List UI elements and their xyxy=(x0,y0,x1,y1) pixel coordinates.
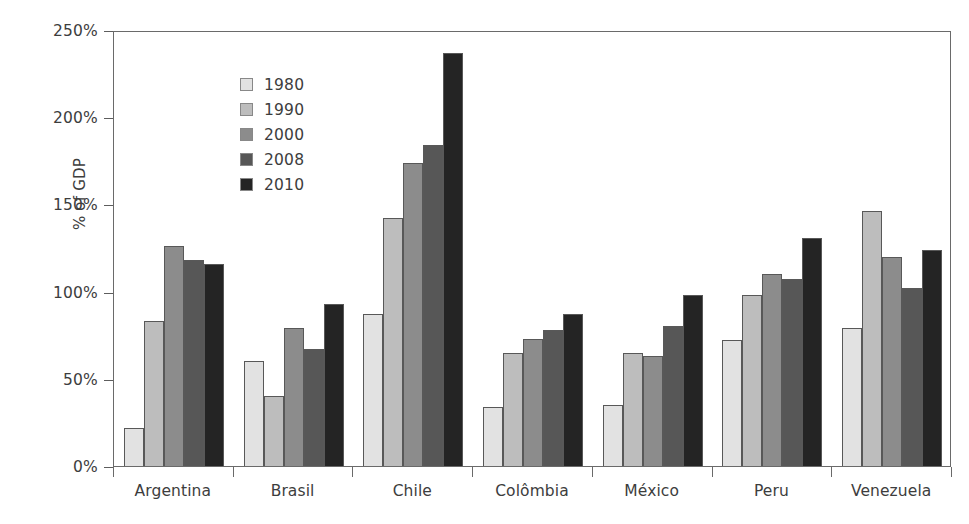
bar xyxy=(164,246,184,466)
bar xyxy=(244,361,264,466)
y-tick-label: 200% xyxy=(36,109,98,127)
bar xyxy=(144,321,164,466)
bar xyxy=(304,349,324,466)
y-tick-label: 100% xyxy=(36,284,98,302)
legend-swatch-icon xyxy=(240,153,253,166)
y-tick-mark xyxy=(104,31,113,32)
x-axis-separator xyxy=(472,467,473,477)
legend-swatch-icon xyxy=(240,103,253,116)
bar xyxy=(762,274,782,466)
bar xyxy=(124,428,144,466)
bar xyxy=(882,257,902,466)
bar xyxy=(663,326,683,466)
y-tick-mark xyxy=(104,205,113,206)
bar-group xyxy=(713,32,833,466)
y-tick-mark xyxy=(104,118,113,119)
x-axis-separator xyxy=(113,467,114,477)
x-axis-category-label: Brasil xyxy=(271,482,315,500)
bar xyxy=(623,353,643,466)
y-tick-mark xyxy=(104,380,113,381)
bar-group xyxy=(114,32,234,466)
x-axis-separator xyxy=(352,467,353,477)
plot-frame: 19801990200020082010 xyxy=(113,31,951,467)
bar xyxy=(782,279,802,466)
x-axis-separator xyxy=(233,467,234,477)
legend-label: 1990 xyxy=(264,101,304,119)
y-tick-mark xyxy=(104,467,113,468)
x-axis-category-label: Peru xyxy=(754,482,789,500)
legend-item: 1980 xyxy=(240,72,350,97)
x-axis-category-label: Venezuela xyxy=(851,482,932,500)
legend-item: 2000 xyxy=(240,122,350,147)
bar xyxy=(862,211,882,466)
bar xyxy=(742,295,762,466)
bar xyxy=(423,145,443,466)
bar-group xyxy=(353,32,473,466)
legend-label: 2000 xyxy=(264,126,304,144)
bar xyxy=(802,238,822,466)
bar xyxy=(204,264,224,466)
y-tick-label: 150% xyxy=(36,196,98,214)
bar xyxy=(443,53,463,466)
y-tick-label: 250% xyxy=(36,22,98,40)
legend-swatch-icon xyxy=(240,128,253,141)
y-tick-label: 0% xyxy=(36,458,98,476)
bar-group xyxy=(593,32,713,466)
legend-swatch-icon xyxy=(240,78,253,91)
legend-label: 2008 xyxy=(264,151,304,169)
x-axis-category-label: México xyxy=(624,482,679,500)
bar-group xyxy=(832,32,952,466)
x-axis-separator xyxy=(831,467,832,477)
x-axis-separator xyxy=(592,467,593,477)
bar xyxy=(284,328,304,466)
bar xyxy=(483,407,503,466)
bar xyxy=(503,353,523,466)
y-tick-label: 50% xyxy=(36,371,98,389)
bar xyxy=(902,288,922,466)
bar xyxy=(363,314,383,466)
bar xyxy=(563,314,583,466)
legend-label: 2010 xyxy=(264,176,304,194)
legend: 19801990200020082010 xyxy=(240,72,350,197)
bar xyxy=(264,396,284,466)
bar xyxy=(383,218,403,466)
bar xyxy=(184,260,204,466)
legend-swatch-icon xyxy=(240,178,253,191)
bar xyxy=(523,339,543,466)
x-axis-separator xyxy=(951,467,952,477)
bar-chart: % of GDP 0%50%100%150%200%250% 198019902… xyxy=(0,0,969,524)
legend-item: 1990 xyxy=(240,97,350,122)
x-axis-separator xyxy=(712,467,713,477)
bar-group xyxy=(473,32,593,466)
bar xyxy=(722,340,742,466)
bar xyxy=(643,356,663,466)
bar xyxy=(922,250,942,466)
legend-item: 2010 xyxy=(240,172,350,197)
x-axis-category-label: Argentina xyxy=(135,482,212,500)
y-tick-mark xyxy=(104,293,113,294)
bar xyxy=(543,330,563,466)
bar xyxy=(403,163,423,466)
legend-label: 1980 xyxy=(264,76,304,94)
bar xyxy=(603,405,623,466)
bar xyxy=(683,295,703,466)
y-axis-tick-labels: 0%50%100%150%200%250% xyxy=(36,0,98,524)
x-axis-category-label: Chile xyxy=(393,482,432,500)
bar xyxy=(324,304,344,466)
bar xyxy=(842,328,862,466)
legend-item: 2008 xyxy=(240,147,350,172)
x-axis-category-label: Colômbia xyxy=(495,482,569,500)
